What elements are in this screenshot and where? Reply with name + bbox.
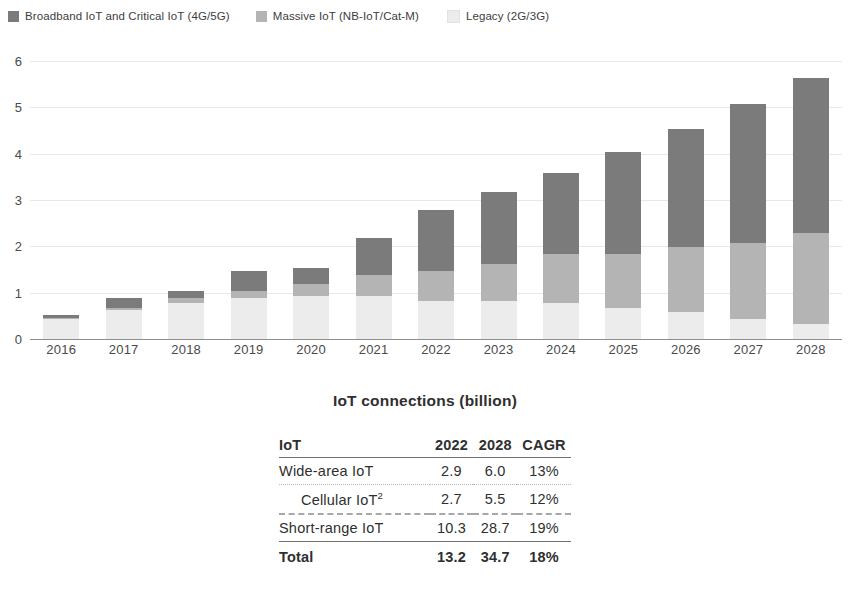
cell-row-label: Cellular IoT2 [279, 485, 430, 514]
x-axis-tick-label: 2028 [780, 342, 842, 357]
table-head: IoT 2022 2028 CAGR [279, 432, 571, 458]
bar-slot [530, 62, 592, 340]
bar-slot [655, 62, 717, 340]
bar-segment [168, 303, 204, 340]
stacked-bar[interactable] [481, 192, 517, 340]
bar-segment [668, 312, 704, 340]
bar-slot [717, 62, 779, 340]
iot-connections-table: IoT 2022 2028 CAGR Wide-area IoT2.96.013… [279, 432, 571, 570]
cell-value-2022: 2.7 [430, 485, 474, 514]
x-axis-labels: 2016201720182019202020212022202320242025… [30, 342, 842, 357]
bar-slot [92, 62, 154, 340]
x-axis-tick-label: 2024 [530, 342, 592, 357]
y-axis-tick-label: 2 [15, 240, 22, 253]
x-axis-tick-label: 2027 [717, 342, 779, 357]
y-axis-tick-label: 6 [15, 55, 22, 68]
stacked-bar[interactable] [106, 298, 142, 340]
bar-segment [730, 319, 766, 340]
x-axis-tick-label: 2019 [217, 342, 279, 357]
bar-segment [668, 129, 704, 247]
stacked-bar[interactable] [730, 104, 766, 340]
stacked-bar[interactable] [356, 238, 392, 340]
x-axis-tick-label: 2022 [405, 342, 467, 357]
table-row: Wide-area IoT2.96.013% [279, 458, 571, 485]
legend-swatch-icon [447, 10, 460, 23]
x-axis-tick-label: 2020 [280, 342, 342, 357]
bar-segment [231, 271, 267, 291]
cell-row-label: Wide-area IoT [279, 458, 430, 485]
x-axis-tick-label: 2021 [342, 342, 404, 357]
table-row: Total13.234.718% [279, 541, 571, 570]
legend-item: Broadband IoT and Critical IoT (4G/5G) [8, 10, 230, 22]
cell-value-2022: 10.3 [430, 514, 474, 542]
stacked-bar[interactable] [293, 268, 329, 340]
bar-segment [231, 298, 267, 340]
legend-item: Legacy (2G/3G) [447, 10, 549, 23]
y-axis-tick-label: 1 [15, 286, 22, 299]
table-row: Cellular IoT22.75.512% [279, 485, 571, 514]
cell-value-cagr: 18% [517, 541, 571, 570]
bar-segment [730, 243, 766, 319]
cell-value-cagr: 13% [517, 458, 571, 485]
cell-value-2028: 6.0 [473, 458, 517, 485]
bar-segment [543, 303, 579, 340]
cell-row-label: Short-range IoT [279, 514, 430, 542]
column-header-2022: 2022 [430, 432, 474, 458]
x-axis-tick-label: 2026 [655, 342, 717, 357]
legend-item: Massive IoT (NB-IoT/Cat-M) [256, 10, 419, 22]
legend-label: Legacy (2G/3G) [466, 10, 549, 22]
legend-label: Broadband IoT and Critical IoT (4G/5G) [25, 10, 230, 22]
table-title: IoT connections (billion) [0, 392, 850, 410]
bar-segment [43, 319, 79, 340]
stacked-bar[interactable] [168, 291, 204, 340]
bar-slot [280, 62, 342, 340]
bar-segment [793, 78, 829, 233]
bar-slot [780, 62, 842, 340]
table-body: Wide-area IoT2.96.013%Cellular IoT22.75.… [279, 458, 571, 570]
cell-value-2022: 13.2 [430, 541, 474, 570]
bar-segment [481, 192, 517, 264]
cell-value-2028: 28.7 [473, 514, 517, 542]
bar-group [30, 62, 842, 340]
bar-segment [605, 254, 641, 307]
bar-segment [418, 271, 454, 301]
y-axis-tick-label: 0 [15, 333, 22, 346]
x-axis-tick-label: 2025 [592, 342, 654, 357]
table-row: Short-range IoT10.328.719% [279, 514, 571, 542]
bar-segment [356, 275, 392, 296]
bar-segment [418, 210, 454, 270]
bar-segment [106, 310, 142, 340]
stacked-bar-chart: 0123456 20162017201820192020202120222023… [0, 30, 850, 375]
iot-connections-table-section: IoT connections (billion) IoT 2022 2028 … [0, 392, 850, 570]
footnote-marker: 2 [378, 490, 383, 501]
x-axis-tick-label: 2016 [30, 342, 92, 357]
bar-segment [605, 308, 641, 340]
column-header-cagr: CAGR [517, 432, 571, 458]
bar-segment [543, 254, 579, 303]
column-header-2028: 2028 [473, 432, 517, 458]
y-axis-tick-label: 4 [15, 147, 22, 160]
stacked-bar[interactable] [793, 78, 829, 340]
bar-segment [356, 296, 392, 340]
stacked-bar[interactable] [43, 315, 79, 340]
stacked-bar[interactable] [543, 173, 579, 340]
stacked-bar[interactable] [605, 152, 641, 340]
table-header-row: IoT 2022 2028 CAGR [279, 432, 571, 458]
legend-label: Massive IoT (NB-IoT/Cat-M) [273, 10, 419, 22]
plot-area: 0123456 [30, 62, 842, 340]
legend-swatch-icon [8, 11, 19, 22]
bar-segment [293, 284, 329, 296]
bar-segment [106, 298, 142, 307]
stacked-bar[interactable] [231, 271, 267, 340]
bar-segment [293, 296, 329, 340]
bar-segment [293, 268, 329, 284]
stacked-bar[interactable] [668, 129, 704, 340]
bar-segment [418, 301, 454, 340]
cell-value-2022: 2.9 [430, 458, 474, 485]
stacked-bar[interactable] [418, 210, 454, 340]
cell-value-2028: 34.7 [473, 541, 517, 570]
bar-segment [168, 291, 204, 298]
x-axis-tick-label: 2023 [467, 342, 529, 357]
bar-segment [543, 173, 579, 254]
y-axis-tick-label: 5 [15, 101, 22, 114]
